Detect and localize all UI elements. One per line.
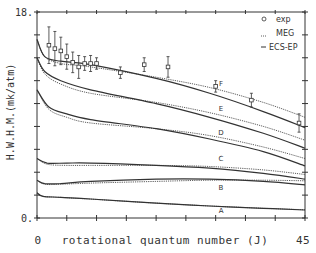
y-axis-label: H.W.H.M.(mk/atm) bbox=[5, 64, 16, 160]
curve-labels: FEDCBA bbox=[218, 80, 223, 214]
exp-marker-icon bbox=[119, 71, 123, 75]
exp-point bbox=[297, 114, 301, 132]
exp-marker-icon bbox=[65, 55, 69, 59]
curve-label-d: D bbox=[218, 129, 223, 137]
exp-point bbox=[214, 81, 218, 92]
axis-ticks bbox=[34, 10, 308, 221]
experimental-points bbox=[47, 27, 301, 132]
y-tick-label-top: 18. bbox=[15, 7, 33, 18]
curve-a-meg bbox=[37, 193, 305, 210]
exp-marker-icon bbox=[47, 43, 51, 47]
exp-marker-icon bbox=[53, 47, 57, 51]
legend-exp-label: exp bbox=[276, 15, 291, 24]
exp-marker-icon bbox=[142, 63, 146, 67]
legend: exp MEG ECS-EP bbox=[261, 15, 298, 52]
exp-point bbox=[119, 67, 123, 78]
exp-point bbox=[71, 52, 75, 73]
exp-marker-icon bbox=[166, 65, 170, 69]
exp-marker-icon bbox=[59, 49, 63, 53]
curve-b-ecs-ep bbox=[37, 179, 305, 185]
curve-d-meg bbox=[37, 90, 305, 159]
exp-point bbox=[250, 93, 254, 107]
curve-a-ecs-ep bbox=[37, 193, 305, 210]
curve-f-ecs-ep bbox=[37, 40, 305, 128]
curve-label-f: F bbox=[219, 80, 223, 88]
exp-point bbox=[142, 58, 146, 72]
exp-marker-icon bbox=[214, 85, 218, 89]
exp-marker-icon bbox=[71, 61, 75, 65]
legend-ecs-ep-label: ECS-EP bbox=[269, 43, 298, 52]
exp-point bbox=[83, 57, 87, 71]
legend-exp-marker-icon bbox=[262, 17, 266, 21]
y-tick-label-bottom: 0. bbox=[21, 213, 33, 224]
curve-d-ecs-ep bbox=[37, 90, 305, 166]
curve-label-e: E bbox=[219, 105, 223, 113]
exp-marker-icon bbox=[83, 62, 87, 66]
exp-marker-icon bbox=[95, 62, 99, 66]
legend-meg-label: MEG bbox=[276, 29, 294, 38]
x-axis-label: rotational quantum number (J) bbox=[62, 234, 269, 247]
exp-marker-icon bbox=[250, 98, 254, 102]
x-tick-label-start: 0 bbox=[34, 234, 41, 247]
exp-marker-icon bbox=[77, 65, 81, 69]
curve-label-b: B bbox=[219, 184, 224, 192]
hwhm-chart: FEDCBA 18. 0. 0 45 rotational quantum nu… bbox=[0, 0, 316, 253]
curve-label-a: A bbox=[219, 207, 224, 215]
exp-point bbox=[166, 57, 170, 78]
x-tick-label-end: 45 bbox=[296, 234, 310, 247]
exp-marker-icon bbox=[89, 62, 93, 66]
curve-label-c: C bbox=[219, 155, 224, 163]
curve-c-ecs-ep bbox=[37, 159, 305, 180]
curve-e-meg bbox=[37, 58, 305, 140]
exp-marker-icon bbox=[297, 121, 301, 125]
plot-frame bbox=[37, 12, 305, 218]
exp-point bbox=[89, 55, 93, 71]
exp-point bbox=[77, 55, 81, 78]
exp-point bbox=[65, 44, 69, 69]
